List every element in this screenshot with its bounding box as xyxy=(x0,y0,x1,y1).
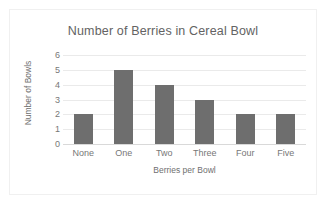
x-tick-label-none: None xyxy=(63,148,103,158)
bar-three[interactable] xyxy=(195,100,214,145)
x-tick-label-three: Three xyxy=(185,148,225,158)
y-axis-title: Number of Bowls xyxy=(23,47,33,139)
y-tick-label: 5 xyxy=(40,65,60,74)
bar-five[interactable] xyxy=(276,114,295,144)
y-tick-label: 6 xyxy=(40,51,60,60)
x-tick-label-four: Four xyxy=(225,148,265,158)
y-tick-label: 0 xyxy=(40,140,60,149)
bar-none[interactable] xyxy=(74,114,93,144)
y-tick-label: 2 xyxy=(40,110,60,119)
x-tick-label-two: Two xyxy=(144,148,184,158)
chart-title: Number of Berries in Cereal Bowl xyxy=(10,24,316,38)
bar-four[interactable] xyxy=(236,114,255,144)
y-axis-tick-labels: 6543210 xyxy=(40,55,60,144)
y-tick-label: 3 xyxy=(40,95,60,104)
y-tick-label: 1 xyxy=(40,125,60,134)
x-tick-label-one: One xyxy=(104,148,144,158)
chart-container: Number of Berries in Cereal Bowl Number … xyxy=(9,9,317,195)
x-axis-title: Berries per Bowl xyxy=(63,165,306,175)
x-axis-tick-labels: NoneOneTwoThreeFourFive xyxy=(63,148,306,162)
bar-one[interactable] xyxy=(114,70,133,144)
bar-two[interactable] xyxy=(155,85,174,144)
bars-layer xyxy=(63,55,306,144)
x-axis-line xyxy=(63,144,306,145)
y-tick-label: 4 xyxy=(40,80,60,89)
x-tick-label-five: Five xyxy=(266,148,306,158)
